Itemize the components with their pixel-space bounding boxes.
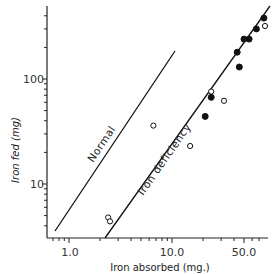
open-data-point xyxy=(151,123,156,128)
y-ticks xyxy=(42,16,47,226)
open-data-point xyxy=(107,219,112,224)
x-tick-label-1: 1.0 xyxy=(61,246,79,259)
open-data-point xyxy=(262,23,267,28)
x-axis-title: Iron absorbed (mg.) xyxy=(110,262,210,273)
y-tick-label-10: 10 xyxy=(30,178,44,191)
y-axis-title: Iron fed (mg) xyxy=(10,117,21,183)
iron-deficiency-label: Iron deficiency xyxy=(135,121,193,197)
open-data-point xyxy=(188,143,193,148)
filled-data-point xyxy=(234,49,240,55)
y-tick-label-100: 100 xyxy=(23,73,44,86)
open-data-point xyxy=(209,89,214,94)
filled-data-point xyxy=(246,36,252,42)
normal-line xyxy=(55,51,175,231)
open-data-point xyxy=(221,98,226,103)
axes xyxy=(47,6,268,238)
filled-data-point xyxy=(202,113,208,119)
x-tick-label-50: 50.0 xyxy=(232,246,257,259)
filled-data-point xyxy=(208,94,214,100)
filled-data-point xyxy=(253,26,259,32)
filled-data-point xyxy=(261,15,267,21)
x-ticks xyxy=(53,238,259,243)
filled-data-point xyxy=(236,64,242,70)
chart: 100 10 1.0 10.0 50.0 Iron absorbed (mg.)… xyxy=(0,0,278,274)
x-tick-label-10: 10.0 xyxy=(160,246,185,259)
